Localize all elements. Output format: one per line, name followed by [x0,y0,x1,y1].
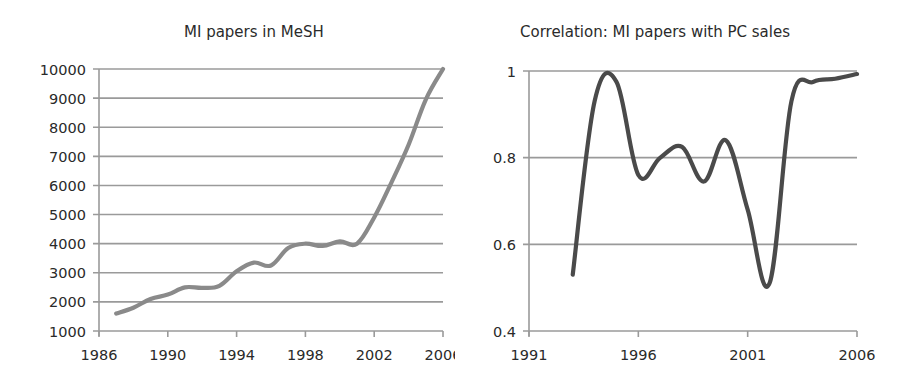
y-tick-label: 0.4 [493,324,516,340]
y-tick-label: 8000 [49,120,86,136]
y-tick-label: 4000 [49,236,86,252]
y-tick-label: 0.8 [493,150,516,166]
chart-mi-papers: MI papers in MeSH 1000200030004000500060… [0,0,455,387]
x-tick-label: 1996 [620,347,657,363]
x-tick-label: 1991 [511,347,548,363]
y-tick-label: 6000 [49,178,86,194]
y-tick-label: 9000 [49,91,86,107]
y-tick-label: 2000 [49,294,86,310]
x-tick-label: 2002 [356,347,393,363]
x-tick-label: 1994 [218,347,255,363]
x-tick-label: 1986 [81,347,118,363]
x-tick-label: 2001 [729,347,766,363]
series-line [116,69,443,314]
y-tick-label: 1000 [49,324,86,340]
y-tick-label: 3000 [49,265,86,281]
chart-correlation: Correlation: MI papers with PC sales 0.4… [455,0,909,387]
y-tick-label: 10000 [40,62,86,78]
x-tick-label: 1998 [287,347,324,363]
x-tick-label: 2006 [425,347,455,363]
x-tick-label: 1990 [149,347,186,363]
y-tick-label: 5000 [49,207,86,223]
y-tick-label: 7000 [49,149,86,165]
x-tick-label: 2006 [839,347,876,363]
y-tick-label: 1 [507,64,516,80]
plot-area: 0.40.60.811991199620012006 [455,0,909,387]
y-tick-label: 0.6 [493,237,516,253]
series-line [573,73,857,287]
plot-area: 1000200030004000500060007000800090001000… [0,0,455,387]
